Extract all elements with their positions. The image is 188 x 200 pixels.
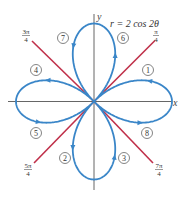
order-label-6: 6 bbox=[118, 33, 129, 44]
order-label-8: 8 bbox=[142, 128, 153, 139]
svg-text:5π: 5π bbox=[24, 162, 32, 170]
arrow-icon bbox=[70, 145, 75, 151]
angle-label-7pi-over-4: 7π 4 bbox=[155, 162, 163, 178]
order-label-2: 2 bbox=[60, 153, 71, 164]
order-label-3: 3 bbox=[119, 153, 130, 164]
polar-rose-figure: x y r = 2 cos 2θ π 4 3π 4 5π 4 7π 4 1 2 bbox=[0, 0, 188, 200]
order-label-7: 7 bbox=[58, 33, 69, 44]
svg-text:5: 5 bbox=[34, 129, 38, 138]
y-axis-label: y bbox=[96, 11, 102, 22]
svg-text:2: 2 bbox=[63, 154, 67, 163]
order-label-1: 1 bbox=[143, 65, 154, 76]
svg-text:4: 4 bbox=[26, 170, 30, 178]
arrow-icon bbox=[137, 120, 143, 125]
svg-text:3π: 3π bbox=[22, 28, 30, 36]
svg-text:4: 4 bbox=[154, 36, 158, 44]
order-label-5: 5 bbox=[31, 128, 42, 139]
arrow-icon bbox=[45, 78, 51, 83]
svg-text:4: 4 bbox=[34, 66, 38, 75]
angle-label-3pi-over-4: 3π 4 bbox=[22, 28, 30, 44]
svg-text:π: π bbox=[154, 28, 158, 36]
svg-text:8: 8 bbox=[145, 129, 149, 138]
equation-label: r = 2 cos 2θ bbox=[110, 18, 159, 29]
svg-text:1: 1 bbox=[146, 66, 150, 75]
order-label-4: 4 bbox=[31, 65, 42, 76]
arrow-icon bbox=[113, 52, 118, 58]
svg-text:7: 7 bbox=[61, 34, 65, 43]
x-axis-label: x bbox=[172, 97, 178, 108]
angle-label-5pi-over-4: 5π 4 bbox=[24, 162, 32, 178]
svg-text:7π: 7π bbox=[155, 162, 163, 170]
svg-text:4: 4 bbox=[157, 170, 161, 178]
svg-text:3: 3 bbox=[122, 154, 126, 163]
svg-text:4: 4 bbox=[24, 36, 28, 44]
angle-label-pi-over-4: π 4 bbox=[153, 28, 159, 44]
svg-text:6: 6 bbox=[121, 34, 125, 43]
